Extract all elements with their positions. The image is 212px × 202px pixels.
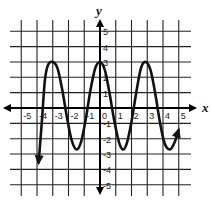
x-axis-left-arrow-icon bbox=[3, 104, 11, 112]
x-tick-label: 4 bbox=[165, 111, 170, 121]
x-tick-label: -3 bbox=[55, 111, 63, 121]
y-tick-label: -1 bbox=[103, 119, 111, 129]
y-tick-label: 1 bbox=[103, 89, 108, 99]
y-axis-label: y bbox=[94, 3, 102, 18]
curve-end-arrow-icon bbox=[172, 128, 181, 139]
x-tick-label: 3 bbox=[149, 111, 154, 121]
x-axis-right-arrow-icon bbox=[189, 104, 197, 112]
x-tick-label: 5 bbox=[181, 111, 186, 121]
axes bbox=[3, 19, 197, 195]
y-tick-label: -3 bbox=[103, 150, 111, 160]
x-tick-label: -2 bbox=[71, 111, 79, 121]
y-tick-label: -4 bbox=[103, 165, 111, 175]
function-graph: -5-4-3-2-101234554321-1-2-3-4-5 x y bbox=[0, 0, 212, 202]
chart-container: -5-4-3-2-101234554321-1-2-3-4-5 x y bbox=[0, 0, 212, 202]
y-tick-label: 5 bbox=[103, 27, 108, 37]
y-tick-label: -2 bbox=[103, 135, 111, 145]
y-tick-label: 4 bbox=[103, 43, 108, 53]
curve-start-arrow-icon bbox=[35, 155, 44, 165]
x-tick-label: -5 bbox=[23, 111, 31, 121]
x-axis-label: x bbox=[201, 100, 209, 115]
x-tick-label: 1 bbox=[118, 111, 123, 121]
y-tick-label: -5 bbox=[103, 181, 111, 191]
y-axis-up-arrow-icon bbox=[96, 19, 104, 27]
